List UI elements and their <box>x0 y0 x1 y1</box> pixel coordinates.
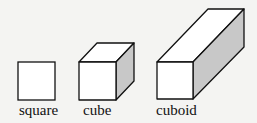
cuboid-label: cuboid <box>156 103 197 118</box>
cuboid-shape <box>157 9 244 99</box>
cube-label: cube <box>83 103 111 118</box>
square-label: square <box>19 103 58 118</box>
cube-shape <box>79 43 134 100</box>
square-shape <box>18 62 55 100</box>
